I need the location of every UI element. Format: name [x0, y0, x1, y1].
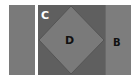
- left-rectangle: [9, 5, 35, 75]
- label-b: B: [113, 37, 121, 48]
- diagram: C D B: [0, 0, 138, 79]
- label-c: C: [41, 10, 49, 21]
- label-d: D: [65, 35, 74, 46]
